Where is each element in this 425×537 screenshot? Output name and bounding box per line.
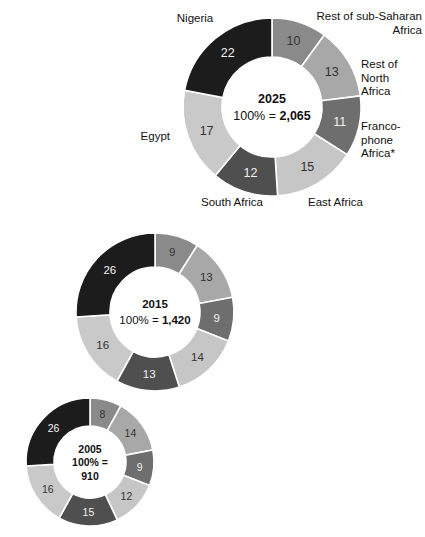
slice-value-label: 16 (42, 483, 54, 495)
label-rest-sub-saharan: Rest of sub-Saharan Africa (278, 10, 422, 37)
slice-value-label: 14 (125, 427, 137, 439)
slice-value-label: 13 (143, 368, 156, 380)
donut-2015-svg: 9139141316262015100% = 1,420 (76, 233, 234, 391)
label-egypt: Egypt (104, 130, 170, 144)
slice-value-label: 8 (100, 408, 106, 420)
slice-value-label: 11 (333, 115, 346, 129)
donut-chart-2025: 101311151217222025100% = 2,065 (183, 18, 361, 196)
slice-value-label: 16 (96, 339, 109, 351)
label-nigeria: Nigeria (150, 12, 240, 26)
label-south-africa: South Africa (184, 196, 280, 210)
label-rest-north-africa: Rest of North Africa (361, 58, 423, 99)
slice-value-label: 9 (137, 461, 143, 473)
donut-chart-2015: 9139141316262015100% = 1,420 (76, 233, 234, 391)
slice-value-label: 17 (200, 124, 214, 138)
center-year-label: 2025 (258, 92, 286, 106)
donut-chart-2005: 8149121516262005100% =910 (26, 398, 154, 526)
slice-value-label: 9 (214, 312, 220, 324)
label-east-africa: East Africa (308, 196, 388, 210)
slice-value-label: 9 (169, 246, 175, 258)
slice-value-label: 12 (244, 166, 258, 180)
slice-value-label: 13 (325, 65, 339, 79)
figure-title-fragment (0, 0, 425, 9)
slice-value-label: 14 (191, 351, 204, 363)
slice-value-label: 26 (48, 422, 60, 434)
center-year-label: 2015 (142, 298, 168, 310)
slice-value-label: 13 (200, 271, 213, 283)
figure-canvas: 101311151217222025100% = 2,065 Nigeria R… (0, 0, 425, 537)
donut-2005-svg: 8149121516262005100% =910 (26, 398, 154, 526)
slice-value-label: 12 (121, 490, 133, 502)
center-total-label: 100% = (72, 456, 108, 468)
slice-value-label: 26 (103, 264, 116, 276)
center-total-label: 910 (81, 470, 99, 482)
slice-value-label: 22 (221, 46, 235, 60)
slice-value-label: 15 (300, 160, 314, 174)
slice-value-label: 15 (83, 506, 95, 518)
donut-2025-svg: 101311151217222025100% = 2,065 (183, 18, 361, 196)
center-total-label: 100% = 1,420 (119, 314, 190, 326)
center-total-label: 100% = 2,065 (233, 109, 311, 123)
center-year-label: 2005 (78, 443, 102, 455)
label-francophone-africa: Franco- phone Africa* (361, 120, 425, 161)
